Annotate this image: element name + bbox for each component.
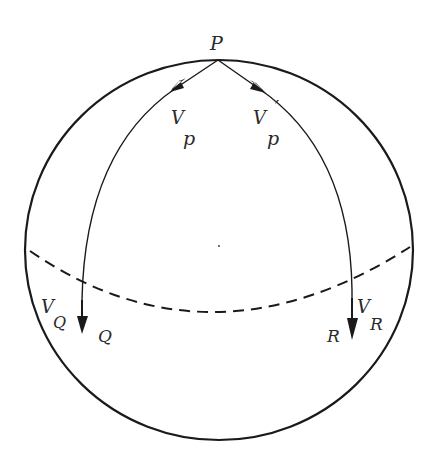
vector-VR-arrow-icon — [347, 318, 358, 340]
label-Vp-sub: p — [183, 127, 195, 149]
label-R: R — [326, 326, 340, 346]
label-P: P — [209, 32, 224, 54]
sphere-center-dot — [218, 245, 220, 247]
label-Vp-prime-main: V — [253, 107, 268, 128]
sphere-diagram: P V p V ′ p V Q Q V R R — [0, 0, 434, 464]
label-Q: Q — [98, 326, 112, 346]
vector-Vp-prime-arrow-icon — [250, 80, 266, 93]
sphere-outline — [25, 60, 413, 440]
label-VQ-sub: Q — [53, 313, 66, 332]
meridian-PR — [218, 60, 352, 336]
label-Vp-main: V — [171, 107, 186, 128]
label-Vp-prime-sub: p — [267, 127, 279, 149]
label-VR-sub: R — [369, 314, 383, 334]
label-Vp-prime-mark: ′ — [275, 97, 279, 118]
vector-VQ-arrow-icon — [77, 316, 88, 334]
vector-Vp-arrow-icon — [170, 78, 186, 92]
